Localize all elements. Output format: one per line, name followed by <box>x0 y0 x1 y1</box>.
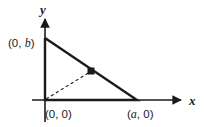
figure-canvas: y x (0, b) (0, 0) (a, 0) <box>0 0 204 127</box>
midpoint-dot <box>88 68 95 75</box>
x-axis-label: x <box>188 93 196 108</box>
label-x-intercept: (a, 0) <box>127 107 154 121</box>
label-y-intercept-prefix: (0, <box>8 37 25 49</box>
label-y-intercept-suffix: ) <box>31 37 35 49</box>
dashed-median-line <box>46 72 90 99</box>
coordinate-figure: y x (0, b) (0, 0) (a, 0) <box>0 0 204 127</box>
y-axis-label: y <box>38 2 46 17</box>
label-origin: (0, 0) <box>45 108 72 120</box>
label-x-intercept-suffix: , 0) <box>137 108 154 120</box>
label-y-intercept: (0, b) <box>8 36 35 50</box>
